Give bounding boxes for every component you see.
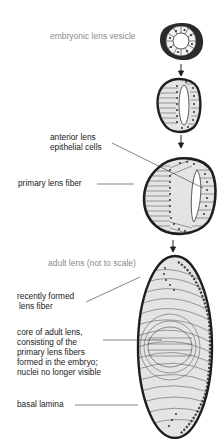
arrow-2 <box>179 135 184 148</box>
elongating-vesicle-shape <box>155 79 202 132</box>
embryonic-lens-vesicle-label: embryonic lens vesicle <box>50 32 136 42</box>
adult-lens-label: adult lens (not to scale) <box>48 259 136 269</box>
embryonic-lens-shape <box>140 158 216 234</box>
core-label-line5: nuclei no longer visible <box>17 368 101 378</box>
basal-lamina-label: basal lamina <box>17 400 64 410</box>
primary-lens-fiber-label: primary lens fiber <box>18 179 82 189</box>
arrow-3 <box>171 240 176 252</box>
adult-lens-shape <box>138 256 212 438</box>
arrow-1 <box>179 64 184 76</box>
recently-formed-label-line2: lens fiber <box>19 302 53 312</box>
embryonic-lens-vesicle-shape <box>160 23 203 60</box>
anterior-epithelial-label-line2: epithelial cells <box>50 143 102 153</box>
